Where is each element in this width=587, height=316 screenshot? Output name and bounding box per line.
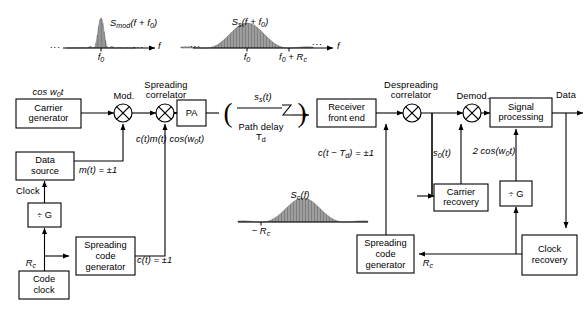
block-label-carrier-generator: Carriergenerator xyxy=(29,103,69,125)
block-label-divide-g-rx: ÷ G xyxy=(509,188,524,199)
spectrum-mod-tick-f0: f0 xyxy=(98,52,105,64)
mixer-despreading-correlator xyxy=(403,104,421,122)
block-label-spreading-code-generator-rx: Spreadingcodegenerator xyxy=(364,238,406,271)
label-ct-td: c(t − Td) = ±1 xyxy=(318,148,374,160)
block-label-signal-processing: Signalprocessing xyxy=(499,102,544,124)
label-rc-rx: Rc xyxy=(423,258,433,270)
antenna-tx-icon: ( xyxy=(224,98,233,129)
mixer-caption-modulator: Mod. xyxy=(113,91,134,101)
label-s0-t: s0(t) xyxy=(433,148,451,160)
mixer-caption-spreading-correlator: Spreadingcorrelator xyxy=(144,80,187,101)
antenna-rx-icon: ) xyxy=(298,98,307,129)
mixer-caption-demodulator: Demod. xyxy=(456,91,489,101)
mixer-spreading-correlator xyxy=(156,104,174,122)
mixer-modulator xyxy=(114,104,132,122)
label-data-output: Data xyxy=(556,90,576,100)
label-rc-tx: Rc xyxy=(26,258,36,270)
spectrum-s-tick-f0: f0 xyxy=(244,52,251,64)
block-label-clock-recovery: Clockrecovery xyxy=(532,244,568,266)
label-ct: c(t) = ±1 xyxy=(137,255,172,265)
block-label-carrier-recovery: Carrierrecovery xyxy=(443,187,479,209)
spectrum-mod-ellipsis-right: ... xyxy=(133,40,144,50)
spectrum-s-axis-label: f xyxy=(337,41,340,51)
spectrum-s-tick-f0-rc: f0 + Rc xyxy=(279,52,307,64)
block-label-receiver-front-end: Receiverfront end xyxy=(328,102,365,124)
spectrum-c-label: Sc(f) xyxy=(290,190,309,202)
label-path-delay: Path delayTd xyxy=(239,122,284,145)
block-label-data-source: Datasource xyxy=(31,155,59,177)
mixer-demodulator xyxy=(463,104,481,122)
label-ss-t: ss(t) xyxy=(254,92,271,104)
block-label-spreading-code-generator-tx: Spreadingcodegenerator xyxy=(84,240,126,273)
block-label-pa: PA xyxy=(186,108,198,119)
label-cos-w0t: cos w0t xyxy=(33,87,64,99)
label-two-cos-w0t: 2 cos(w0t) xyxy=(473,146,516,158)
mixer-caption-despreading-correlator: Despreadingcorrelator xyxy=(384,80,438,101)
spectrum-mod-label: Smod(f + f0) xyxy=(110,18,157,30)
label-mt: m(t) = ±1 xyxy=(79,165,117,175)
label-ctmt-cos: c(t)m(t) cos(w0t) xyxy=(136,134,204,146)
block-label-code-clock: Codeclock xyxy=(33,274,55,296)
label-clock: Clock xyxy=(16,186,40,196)
spectrum-s-ellipsis-left: ... xyxy=(190,39,201,49)
figure-canvas: Smod(f + f0) ... ... f f0 Ss(f + f0) ...… xyxy=(0,0,587,316)
spectrum-s-label: Ss(f + f0) xyxy=(232,17,269,29)
block-label-divide-g-tx: ÷ G xyxy=(37,210,52,221)
spectrum-mod-ellipsis-left: ... xyxy=(50,40,61,50)
spectrum-mod-axis-label: f xyxy=(158,41,161,51)
spectrum-c-tick-rc: − Rc xyxy=(252,226,271,238)
spectrum-s-ellipsis-right: ... xyxy=(312,37,323,47)
